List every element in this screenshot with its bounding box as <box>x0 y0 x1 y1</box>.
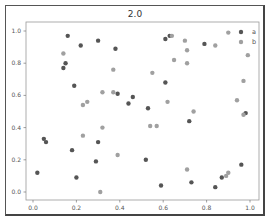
data-point-b <box>154 124 158 128</box>
data-point-b <box>213 43 217 47</box>
data-point-a <box>159 183 163 187</box>
data-point-a <box>35 170 39 174</box>
x-tick-label: 0.8 <box>202 204 212 211</box>
data-point-b <box>185 48 189 52</box>
data-point-b <box>226 30 230 34</box>
data-point-a <box>79 43 83 47</box>
legend-marker-a <box>239 30 243 34</box>
y-tick-label: 0.6 <box>11 91 21 98</box>
data-point-b <box>183 38 187 42</box>
data-point-a <box>144 158 148 162</box>
data-point-a <box>131 95 135 99</box>
x-tick-label: 0.0 <box>28 204 38 211</box>
data-point-a <box>126 101 130 105</box>
data-point-b <box>185 167 189 171</box>
data-point-a <box>63 61 67 65</box>
data-point-b <box>100 90 104 94</box>
data-point-a <box>96 140 100 144</box>
data-point-a <box>189 180 193 184</box>
legend-label-a: a <box>252 28 256 36</box>
data-point-b <box>235 98 239 102</box>
y-tick-label: 0.8 <box>11 59 21 66</box>
data-point-a <box>96 38 100 42</box>
data-point-a <box>61 66 65 70</box>
x-tick-label: 0.4 <box>115 204 125 211</box>
data-point-a <box>220 175 224 179</box>
legend-label-b: b <box>252 38 256 46</box>
data-point-a <box>213 185 217 189</box>
data-point-b <box>185 61 189 65</box>
data-point-b <box>111 67 115 71</box>
data-point-b <box>241 79 245 83</box>
data-point-b <box>241 113 245 117</box>
data-point-a <box>202 42 206 46</box>
data-point-a <box>44 140 48 144</box>
data-point-b <box>81 103 85 107</box>
data-point-b <box>148 124 152 128</box>
y-tick-label: 1.0 <box>11 27 21 34</box>
data-point-b <box>170 34 174 38</box>
x-tick-label: 0.6 <box>158 204 168 211</box>
data-point-b <box>98 190 102 194</box>
x-tick-label: 0.2 <box>72 204 82 211</box>
y-tick-label: 0.0 <box>11 188 21 195</box>
data-point-a <box>94 159 98 163</box>
data-point-a <box>163 37 167 41</box>
data-point-a <box>74 175 78 179</box>
data-point-a <box>146 106 150 110</box>
data-point-b <box>224 174 228 178</box>
data-point-a <box>70 148 74 152</box>
legend-marker-b <box>239 40 243 44</box>
data-point-a <box>72 84 76 88</box>
y-tick-label: 0.4 <box>11 124 21 131</box>
data-point-b <box>85 100 89 104</box>
data-point-b <box>61 51 65 55</box>
data-point-b <box>150 71 154 75</box>
plot-area <box>26 22 259 200</box>
y-tick-label: 0.2 <box>11 156 21 163</box>
data-point-b <box>172 58 176 62</box>
data-point-a <box>66 34 70 38</box>
data-point-b <box>191 109 195 113</box>
data-point-a <box>239 162 243 166</box>
data-point-b <box>81 133 85 137</box>
data-point-b <box>115 153 119 157</box>
x-tick-label: 1.0 <box>245 204 255 211</box>
data-point-b <box>100 125 104 129</box>
data-point-b <box>246 53 250 57</box>
data-point-a <box>163 80 167 84</box>
data-point-b <box>165 100 169 104</box>
data-point-a <box>115 92 119 96</box>
scatter-plot: 0.00.20.40.60.81.00.00.20.40.60.81.0 ab <box>0 0 270 221</box>
data-point-b <box>111 90 115 94</box>
data-point-a <box>187 119 191 123</box>
data-point-a <box>113 47 117 51</box>
